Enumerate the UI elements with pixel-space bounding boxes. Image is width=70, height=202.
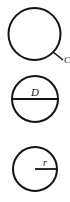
diagram-radius: r <box>0 136 70 202</box>
diagram-circumference: C <box>0 0 70 68</box>
circumference-leader-line <box>53 52 63 60</box>
circle-parts-figure: C D r <box>0 0 70 202</box>
circumference-label: C <box>64 55 70 65</box>
diagram-diameter: D <box>0 68 70 130</box>
circumference-circle-outline <box>9 8 61 60</box>
diameter-label: D <box>30 86 39 98</box>
radius-label: r <box>43 157 47 168</box>
